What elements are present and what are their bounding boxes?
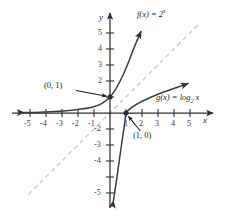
x-tick-label--5: -5 (24, 120, 31, 128)
x-tick-label-5: 5 (187, 120, 191, 128)
y-tick-label-3: 3 (98, 61, 102, 69)
y-tick-label--5: -5 (94, 189, 101, 197)
function-label-f-text: f(x) = 2 (137, 9, 163, 19)
y-tick-label--3: -3 (94, 141, 101, 149)
y-tick-label-4: 4 (98, 45, 102, 53)
y-axis-label: y (99, 13, 103, 22)
graph-figure: x y -5 -4 -3 -2 -1 1 2 3 4 5 5 4 3 2 -2 … (0, 0, 230, 220)
function-label-g: g(x) = log2 x (156, 93, 199, 102)
x-tick-label-3: 3 (155, 120, 159, 128)
x-tick-label--2: -2 (72, 120, 79, 128)
point-label-0-1: (0, 1) (44, 81, 62, 90)
function-label-f-exponent: x (163, 8, 166, 14)
curve-exponential-f (24, 32, 141, 113)
x-axis-label: x (203, 116, 207, 125)
function-label-g-text: g(x) = log (156, 92, 191, 102)
point-1-0-marker (124, 111, 129, 116)
leader-arrow-point-0-1 (76, 91, 107, 97)
y-tick-label-2: 2 (98, 77, 102, 85)
y-tick-label--4: -4 (94, 157, 101, 165)
graph-canvas (0, 0, 230, 220)
function-label-f: f(x) = 2x (137, 10, 166, 19)
y-tick-label-5: 5 (98, 29, 102, 37)
x-tick-label--3: -3 (56, 120, 63, 128)
y-tick-label--2: -2 (94, 125, 101, 133)
point-label-1-0: (1, 0) (133, 131, 151, 140)
x-tick-label-4: 4 (171, 120, 175, 128)
point-0-1-marker (108, 95, 113, 100)
x-tick-label-1: 1 (124, 120, 128, 128)
x-tick-label-2: 2 (139, 120, 143, 128)
x-tick-label--4: -4 (40, 120, 47, 128)
function-label-g-argument: x (193, 92, 199, 102)
